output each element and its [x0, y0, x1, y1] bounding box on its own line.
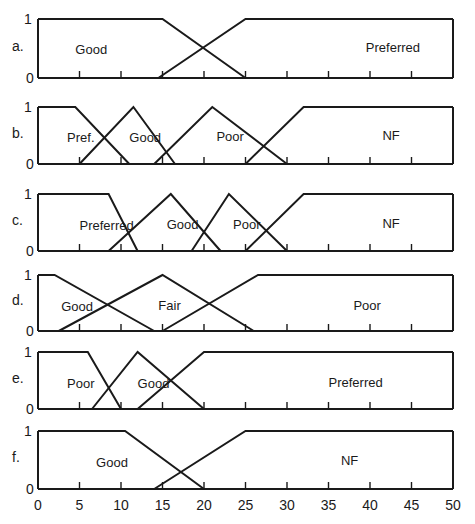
set-label: Poor — [67, 376, 95, 391]
set-label: Preferred — [329, 375, 383, 390]
x-tick-label: 25 — [238, 497, 254, 513]
panel-label: e. — [12, 370, 24, 386]
set-label: NF — [382, 216, 399, 231]
x-tick-label: 45 — [404, 497, 420, 513]
set-label: Good — [129, 130, 161, 145]
panel-b: 10b.Pref.GoodPoorNF — [12, 99, 453, 172]
panel-label: c. — [12, 212, 23, 228]
set-label: Good — [75, 42, 107, 57]
panel-d: 10d.GoodFairPoor — [12, 267, 453, 339]
membership-nf — [154, 431, 453, 489]
fuzzy-membership-chart: 10a.GoodPreferred10b.Pref.GoodPoorNF10c.… — [0, 0, 475, 524]
membership-preferred — [138, 352, 453, 409]
y-tick-label-0: 0 — [26, 243, 34, 259]
set-label: Good — [61, 299, 93, 314]
set-label: Preferred — [80, 218, 134, 233]
set-label: NF — [382, 128, 399, 143]
panel-a: 10a.GoodPreferred — [12, 11, 453, 86]
membership-nf — [246, 194, 454, 251]
y-tick-label-1: 1 — [24, 99, 32, 115]
x-tick-label: 15 — [155, 497, 171, 513]
y-tick-label-1: 1 — [24, 11, 32, 27]
membership-poor — [163, 275, 454, 331]
x-tick-label: 0 — [34, 497, 42, 513]
panel-label: b. — [12, 125, 24, 141]
y-tick-label-0: 0 — [26, 70, 34, 86]
y-tick-label-1: 1 — [24, 423, 32, 439]
set-label: Fair — [158, 298, 181, 313]
y-tick-label-0: 0 — [26, 323, 34, 339]
y-tick-label-0: 0 — [26, 156, 34, 172]
y-tick-label-1: 1 — [24, 267, 32, 283]
x-tick-label: 50 — [445, 497, 461, 513]
y-tick-label-1: 1 — [24, 344, 32, 360]
y-tick-label-1: 1 — [24, 186, 32, 202]
set-label: Pref. — [67, 130, 94, 145]
x-tick-label: 40 — [362, 497, 378, 513]
x-tick-label: 10 — [113, 497, 129, 513]
set-label: NF — [341, 453, 358, 468]
x-axis-labels: 05101520253035404550 — [34, 497, 461, 513]
set-label: Poor — [353, 298, 381, 313]
x-tick-label: 20 — [196, 497, 212, 513]
set-label: Poor — [233, 217, 261, 232]
panel-c: 10c.PreferredGoodPoorNF — [12, 186, 453, 259]
y-tick-label-0: 0 — [26, 401, 34, 417]
membership-good — [38, 275, 154, 331]
set-label: Good — [167, 217, 199, 232]
panel-f: 10f.GoodNF — [12, 423, 453, 497]
membership-good — [38, 19, 246, 78]
set-label: Good — [96, 455, 128, 470]
panel-e: 10e.PoorGoodPreferred — [12, 344, 453, 417]
set-label: Preferred — [366, 40, 420, 55]
x-tick-label: 30 — [279, 497, 295, 513]
panel-label: a. — [12, 38, 24, 54]
x-tick-label: 35 — [321, 497, 337, 513]
panel-label: f. — [12, 449, 20, 465]
set-label: Poor — [216, 129, 244, 144]
set-label: Good — [138, 376, 170, 391]
x-tick-label: 5 — [76, 497, 84, 513]
panel-label: d. — [12, 292, 24, 308]
y-tick-label-0: 0 — [26, 481, 34, 497]
